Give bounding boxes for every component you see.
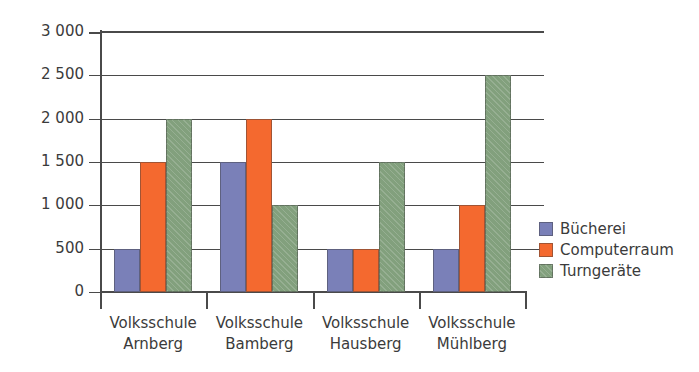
x-axis-category-label: VolksschuleBamberg bbox=[206, 313, 312, 355]
legend-color-swatch bbox=[539, 222, 553, 236]
legend-color-swatch bbox=[539, 264, 553, 278]
legend-color-swatch bbox=[539, 243, 553, 257]
x-axis-category-label: VolksschuleHausberg bbox=[313, 313, 419, 355]
bar bbox=[327, 249, 353, 292]
bar-chart: 05001 0001 5002 0002 5003 000 Volksschul… bbox=[0, 0, 699, 372]
legend-item: Bücherei bbox=[539, 219, 689, 239]
y-axis-tick bbox=[89, 119, 100, 120]
y-axis-tick bbox=[89, 205, 100, 206]
x-axis-category-label-line: Volksschule bbox=[206, 313, 312, 334]
y-axis-tick-label: 500 bbox=[0, 239, 84, 257]
bar bbox=[166, 119, 192, 292]
x-axis-category-label-line: Hausberg bbox=[313, 334, 419, 355]
y-axis-tick bbox=[89, 292, 100, 293]
bar bbox=[140, 162, 166, 292]
y-axis-tick-label: 2 000 bbox=[0, 109, 84, 127]
bar bbox=[272, 205, 298, 292]
x-axis-category-label-line: Arnberg bbox=[100, 334, 206, 355]
legend-item: Turngeräte bbox=[539, 261, 689, 281]
x-axis-category-label-line: Mühlberg bbox=[419, 334, 525, 355]
legend-item-label: Bücherei bbox=[560, 220, 626, 238]
legend-item: Computerraum bbox=[539, 240, 689, 260]
legend-item-label: Computerraum bbox=[560, 241, 674, 259]
y-axis-tick bbox=[89, 75, 100, 76]
y-axis-tick bbox=[89, 162, 100, 163]
y-axis-tick bbox=[89, 32, 100, 34]
plot-area bbox=[100, 32, 525, 292]
x-axis-separator-tick bbox=[100, 293, 102, 309]
bar bbox=[246, 119, 272, 292]
legend-item-label: Turngeräte bbox=[560, 262, 641, 280]
y-axis-tick-label: 0 bbox=[0, 282, 84, 300]
bar bbox=[485, 75, 511, 292]
y-axis-tick-label: 1 000 bbox=[0, 195, 84, 213]
bar bbox=[353, 249, 379, 292]
bar bbox=[433, 249, 459, 292]
y-axis-tick-label: 3 000 bbox=[0, 22, 84, 40]
x-axis-category-label: VolksschuleMühlberg bbox=[419, 313, 525, 355]
y-axis-tick-label: 2 500 bbox=[0, 65, 84, 83]
x-axis-separator-tick bbox=[313, 293, 315, 309]
x-axis-category-label: VolksschuleArnberg bbox=[100, 313, 206, 355]
y-axis-tick-label: 1 500 bbox=[0, 152, 84, 170]
bar bbox=[379, 162, 405, 292]
x-axis-category-label-line: Bamberg bbox=[206, 334, 312, 355]
x-axis-category-label-line: Volksschule bbox=[100, 313, 206, 334]
chart-legend: BüchereiComputerraumTurngeräte bbox=[539, 219, 689, 282]
bar bbox=[220, 162, 246, 292]
x-axis-separator-tick bbox=[206, 293, 208, 309]
bar bbox=[459, 205, 485, 292]
bar bbox=[114, 249, 140, 292]
x-axis-separator-tick bbox=[419, 293, 421, 309]
x-axis-category-label-line: Volksschule bbox=[313, 313, 419, 334]
y-axis-tick bbox=[89, 249, 100, 250]
x-axis-separator-tick bbox=[525, 293, 527, 309]
x-axis-category-label-line: Volksschule bbox=[419, 313, 525, 334]
